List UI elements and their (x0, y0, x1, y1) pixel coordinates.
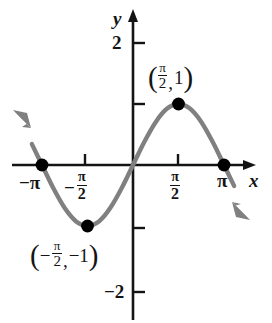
x-tick-label-pi: π (217, 171, 227, 190)
max-label-denominator: 2 (158, 75, 168, 92)
min-label-fraction: π 2 (52, 239, 62, 269)
max-label-y-value: 1 (174, 68, 184, 87)
y-tick-label-2: 2 (112, 33, 122, 52)
max-point-label: ( π 2 ,1) (148, 62, 193, 92)
max-label-numerator: π (158, 61, 168, 75)
max-label-fraction: π 2 (158, 61, 168, 91)
neg-half-pi-numerator: π (77, 170, 87, 185)
neg-pi-symbol: π (30, 173, 40, 192)
y-axis-label: y (113, 9, 121, 28)
x-tick-label-neg-half-pi: − π 2 (64, 171, 87, 203)
min-label-close-paren: ) (89, 244, 99, 267)
y-tick-label-neg2: −2 (104, 282, 124, 301)
point-max (172, 98, 185, 111)
sine-graph-figure: y x 2 −2 −π − π 2 π 2 π ( π 2 ,1) (− π 2… (0, 0, 272, 323)
point-min (81, 220, 94, 233)
min-label-y-value: 1 (79, 246, 89, 265)
min-label-y-sign: − (69, 246, 80, 265)
y-axis-arrowhead (128, 9, 138, 22)
x-axis-label: x (249, 171, 259, 190)
neg-half-pi-sign: − (64, 178, 77, 197)
max-label-comma: , (167, 73, 174, 92)
min-label-open-paren: ( (30, 244, 40, 267)
half-pi-denominator: 2 (170, 185, 180, 203)
x-tick-label-half-pi: π 2 (170, 171, 180, 203)
min-label-x-sign: − (40, 246, 53, 265)
max-label-close-paren: ) (183, 66, 193, 89)
x-tick-label-neg-pi: −π (19, 171, 40, 192)
min-label-numerator: π (52, 239, 62, 253)
max-label-open-paren: ( (148, 66, 158, 89)
point-neg-pi (36, 159, 49, 172)
neg-pi-sign: − (19, 173, 30, 192)
graph-canvas (0, 0, 272, 323)
half-pi-numerator: π (170, 170, 180, 185)
half-pi-fraction: π 2 (170, 170, 180, 202)
neg-half-pi-fraction: π 2 (77, 170, 87, 202)
min-label-comma: , (62, 251, 69, 270)
min-label-denominator: 2 (52, 253, 62, 270)
x-axis-arrowhead (243, 160, 256, 170)
min-point-label: (− π 2 ,−1) (30, 240, 99, 270)
neg-half-pi-denominator: 2 (77, 185, 87, 203)
curve-right-arrowhead-fill (232, 202, 250, 220)
